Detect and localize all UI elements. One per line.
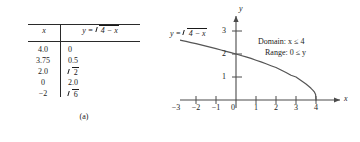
table-row: 3.75 0.5 (28, 56, 140, 67)
figure-container: x y = 4 − x 4.0 0 3.75 0.5 2.0 2 0 2.0 (0, 0, 360, 142)
x-tick-label: 3 (290, 103, 302, 112)
y-tick-label: 2 (218, 49, 230, 58)
sqrt-symbol: 2 (68, 67, 79, 77)
table-row: −2 6 (28, 89, 140, 100)
x-axis-label: x (344, 94, 348, 103)
table-panel: x y = 4 − x 4.0 0 3.75 0.5 2.0 2 0 2.0 (0, 0, 180, 142)
column-header-y-radicand: 4 − x (99, 25, 118, 35)
cell-y: 2.0 (68, 78, 108, 87)
table-row: 2.0 2 (28, 67, 140, 78)
x-tick-label: −1 (210, 103, 222, 112)
cell-x: 4.0 (28, 45, 58, 54)
cell-y: 2 (68, 67, 108, 77)
y-axis-label: y (239, 4, 243, 13)
function-label-radicand: 4 − x (187, 28, 206, 38)
function-label-prefix: y = (170, 29, 181, 38)
column-header-x: x (28, 26, 60, 35)
domain-annotation: Domain: x ≤ 4 (258, 37, 304, 46)
function-label: y = 4 − x (170, 28, 207, 38)
table-row: 0 2.0 (28, 78, 140, 89)
y-axis-arrow (233, 16, 238, 22)
x-tick-label: 2 (270, 103, 282, 112)
cell-x: 2.0 (28, 67, 58, 76)
cell-y: 0 (68, 45, 108, 54)
cell-x: 3.75 (28, 56, 58, 65)
function-curve (180, 37, 316, 100)
column-header-y: y = 4 − x (61, 25, 140, 35)
sqrt-symbol-curve: 4 − x (183, 28, 207, 38)
table-header-rule (28, 41, 140, 42)
sqrt-symbol-header: 4 − x (95, 25, 119, 35)
x-tick-label: 0 (227, 103, 239, 112)
cell-y: 0.5 (68, 56, 108, 65)
range-annotation: Range: 0 ≤ y (265, 48, 306, 57)
graph-panel: y x −3 −2 −1 0 1 2 3 4 1 2 3 y = 4 − x D… (180, 0, 360, 142)
graph-svg (180, 0, 360, 142)
column-header-y-prefix: y = (82, 26, 93, 35)
cell-y: 6 (68, 89, 108, 99)
x-tick-label: 4 (310, 103, 322, 112)
y-tick-label: 1 (218, 72, 230, 81)
cell-x: −2 (28, 89, 58, 98)
cell-y-radicand: 6 (72, 89, 79, 99)
cell-y-radicand: 2 (72, 67, 79, 77)
table-row: 4.0 0 (28, 45, 140, 56)
x-axis-arrow (334, 97, 340, 102)
caption-a: (a) (52, 112, 116, 121)
table-header-row: x y = 4 − x (28, 25, 140, 41)
cell-x: 0 (28, 78, 58, 87)
x-tick-label: −2 (190, 103, 202, 112)
x-tick-label: 1 (250, 103, 262, 112)
sqrt-symbol: 6 (68, 89, 79, 99)
y-tick-label: 3 (218, 26, 230, 35)
x-tick-label: −3 (170, 103, 182, 112)
